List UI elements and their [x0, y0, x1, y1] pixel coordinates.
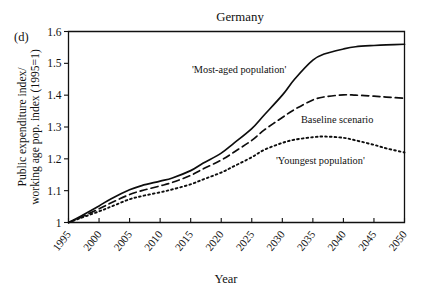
line-chart: 11.11.21.31.41.51.6 19952000200520102015… — [0, 0, 429, 294]
y-axis-tick-marks — [64, 32, 69, 223]
y-tick-label: 1.5 — [47, 57, 62, 69]
y-tick-label: 1 — [56, 217, 62, 229]
x-tick-label: 2045 — [356, 228, 379, 253]
panel-label: (d) — [14, 30, 29, 44]
y-axis-title-line1: Public expenditure index/ — [16, 67, 29, 187]
x-tick-label: 1995 — [50, 228, 73, 253]
y-tick-label: 1.2 — [47, 153, 62, 165]
x-tick-label: 2025 — [233, 228, 256, 253]
x-tick-label: 2020 — [203, 228, 226, 253]
x-tick-label: 2000 — [81, 228, 104, 253]
y-tick-label: 1.4 — [47, 89, 62, 101]
chart-figure: 11.11.21.31.41.51.6 19952000200520102015… — [0, 0, 429, 294]
x-tick-label: 2030 — [264, 228, 287, 253]
y-tick-label: 1.1 — [47, 185, 62, 197]
x-tick-label: 2010 — [142, 228, 165, 253]
chart-title: Germany — [216, 10, 264, 24]
x-tick-label: 2035 — [294, 228, 317, 253]
x-tick-label: 2005 — [111, 228, 134, 253]
x-tick-label: 2050 — [386, 228, 409, 253]
x-axis-title: Year — [214, 272, 238, 286]
x-axis-tick-labels: 1995200020052010201520202025203020352040… — [50, 228, 409, 253]
x-tick-label: 2040 — [325, 228, 348, 253]
series-annotations: 'Most-aged population'Baseline scenario'… — [192, 64, 373, 166]
series-curve-2 — [69, 137, 405, 223]
series-annotation-2: 'Youngest population' — [276, 155, 365, 166]
y-tick-label: 1.3 — [47, 121, 62, 133]
y-axis-tick-labels: 11.11.21.31.41.51.6 — [47, 26, 62, 229]
series-annotation-0: 'Most-aged population' — [192, 64, 287, 75]
x-axis-tick-marks — [69, 218, 405, 223]
y-axis-title-line2: working age pop. index (1995=1) — [29, 49, 42, 205]
y-tick-label: 1.6 — [47, 26, 62, 38]
series-annotation-1: Baseline scenario — [301, 114, 373, 125]
x-tick-label: 2015 — [172, 228, 195, 253]
